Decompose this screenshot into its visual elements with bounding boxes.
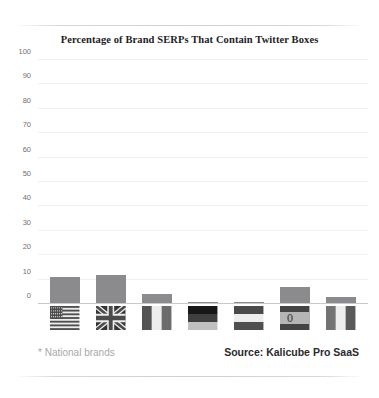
y-tick-label-90: 90: [23, 71, 31, 80]
source-label: Source: Kalicube Pro SaaS: [224, 346, 359, 358]
y-tick-label-80: 80: [23, 95, 31, 104]
y-tick-label-30: 30: [23, 217, 31, 226]
bar-slot: [134, 60, 180, 304]
flag-de-icon: [188, 306, 217, 330]
flag-slot: [272, 306, 318, 332]
chart-page: Percentage of Brand SERPs That Contain T…: [0, 0, 379, 398]
y-tick-label-60: 60: [23, 144, 31, 153]
bar-slot: [180, 60, 226, 304]
y-tick-label-70: 70: [23, 120, 31, 129]
page-title: Percentage of Brand SERPs That Contain T…: [0, 34, 379, 45]
flag-slot: [134, 306, 180, 332]
footnote: * National brands: [38, 347, 115, 358]
flag-nl-icon: [234, 306, 263, 330]
y-tick-label-10: 10: [23, 266, 31, 275]
flag-uk-icon: [96, 306, 125, 330]
flag-fr-icon: [142, 306, 171, 330]
bar-slot: [318, 60, 364, 304]
bar-slot: [226, 60, 272, 304]
x-axis-flag-labels: [38, 306, 368, 332]
bar-series: [38, 60, 368, 304]
flag-slot: [88, 306, 134, 332]
flag-us-icon: [50, 306, 79, 330]
flag-slot: [42, 306, 88, 332]
y-tick-label-40: 40: [23, 193, 31, 202]
flag-slot: [180, 306, 226, 332]
bottom-divider: [14, 376, 365, 377]
y-tick-label-100: 100: [18, 47, 31, 56]
bar-spain: [280, 287, 309, 304]
bar-united-kingdom: [96, 275, 125, 304]
bar-slot: [88, 60, 134, 304]
top-divider: [14, 25, 365, 26]
flag-it-icon: [326, 306, 355, 330]
flag-es-icon: [280, 306, 309, 330]
flag-slot: [226, 306, 272, 332]
y-tick-label-50: 50: [23, 169, 31, 178]
y-tick-label-0: 0: [27, 291, 31, 300]
bar-united-states: [50, 277, 79, 304]
bar-slot: [42, 60, 88, 304]
bar-slot: [272, 60, 318, 304]
plot-area: 1009080706050403020100: [38, 60, 368, 304]
x-axis-line: [38, 303, 368, 304]
flag-slot: [318, 306, 364, 332]
y-tick-label-20: 20: [23, 242, 31, 251]
